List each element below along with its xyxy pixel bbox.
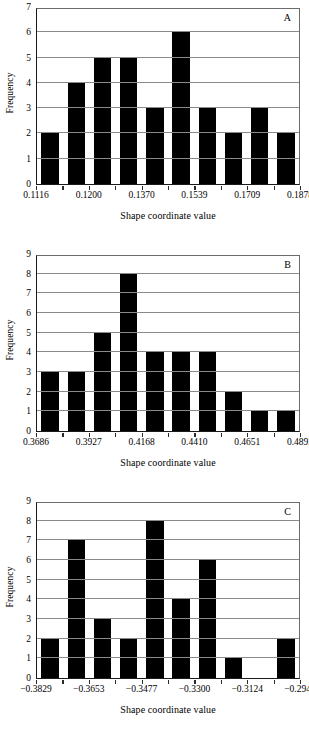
gridline [37,520,299,521]
bar-slot [89,503,115,678]
gridline [37,132,299,133]
gridline [37,371,299,372]
histogram-figure: Frequency 01234567 A 0.11160.12000.13700… [0,0,309,742]
x-tick-label: 0.4651 [234,438,260,448]
x-tick-label: −0.3124 [231,685,262,695]
histogram-bar [94,58,111,184]
gridline [37,618,299,619]
y-tick-label: 9 [26,497,31,507]
y-tick-label: 1 [26,408,31,418]
y-tick-label: 7 [26,3,31,13]
x-tick-mark [62,186,63,190]
x-axis-title-a: Shape coordinate value [36,210,300,221]
gridline [37,31,299,32]
gridline [37,351,299,352]
bar-slot [63,503,89,678]
bar-slot [89,256,115,431]
x-tick-label: 0.1370 [129,191,155,201]
histogram-bar [172,352,189,431]
y-tick-label: 5 [26,329,31,339]
gridline [37,559,299,560]
y-tick-label: 6 [26,309,31,319]
bar-slot [142,256,168,431]
chart-panel-a: Frequency 01234567 A 0.11160.12000.13700… [0,0,309,247]
y-tick-label: 4 [26,596,31,606]
bar-series-b [37,256,299,431]
y-tick-label: 1 [26,155,31,165]
gridline [37,657,299,658]
plot-wrapper-b: Frequency 0123456789 B 0.36860.39270.416… [0,247,309,494]
histogram-bar [225,133,242,184]
x-tick-label: −0.3829 [20,685,51,695]
x-tick-label: 0.1116 [23,191,48,201]
x-tick-label: 0.1200 [76,191,102,201]
histogram-bar [251,411,268,431]
bar-slot [273,503,299,678]
x-tick-mark [274,680,275,684]
x-tick-mark [115,680,116,684]
bar-slot [142,503,168,678]
y-axis-label-text-a: Frequency [4,72,14,113]
gridline [37,292,299,293]
x-tick-mark [274,433,275,437]
histogram-bar [146,108,163,184]
y-axis-ticks-c: 0123456789 [14,494,34,679]
plot-wrapper-c: Frequency 0123456789 C −0.3829−0.3653−0.… [0,494,309,741]
x-tick-label: 0.4410 [181,438,207,448]
x-tick-mark [168,433,169,437]
histogram-bar [251,108,268,184]
plot-wrapper-a: Frequency 01234567 A 0.11160.12000.13700… [0,0,309,247]
histogram-bar [199,108,216,184]
y-tick-label: 3 [26,368,31,378]
x-tick-label: 0.4168 [129,438,155,448]
histogram-bar [94,619,111,678]
gridline [37,82,299,83]
plot-area-c: C [36,502,300,679]
y-tick-label: 0 [26,180,31,190]
x-tick-mark [274,186,275,190]
bar-slot [168,256,194,431]
bar-slot [116,256,142,431]
x-tick-label: 0.4893 [287,438,309,448]
gridline [37,158,299,159]
bar-series-c [37,503,299,678]
x-tick-mark [115,186,116,190]
x-tick-label: 0.1539 [181,191,207,201]
y-tick-label: 1 [26,655,31,665]
gridline [37,391,299,392]
y-tick-label: 5 [26,54,31,64]
histogram-bar [41,372,58,431]
histogram-bar [277,133,294,184]
gridline [37,598,299,599]
y-tick-label: 9 [26,250,31,260]
x-tick-label: −0.2948 [284,685,309,695]
x-tick-mark [168,680,169,684]
y-tick-label: 8 [26,517,31,527]
y-axis-ticks-b: 0123456789 [14,247,34,432]
y-tick-label: 4 [26,349,31,359]
x-tick-mark [62,433,63,437]
bar-slot [247,503,273,678]
x-axis-tick-labels-a: 0.11160.12000.13700.15390.17090.1878 [0,191,309,205]
bar-slot [194,503,220,678]
bar-slot [273,256,299,431]
gridline [37,579,299,580]
bar-slot [37,256,63,431]
y-tick-label: 3 [26,104,31,114]
y-tick-label: 2 [26,635,31,645]
plot-area-a: A [36,8,300,185]
histogram-bar [277,411,294,431]
gridline [37,107,299,108]
y-tick-label: 7 [26,537,31,547]
histogram-bar [94,333,111,431]
x-axis-title-c: Shape coordinate value [36,704,300,715]
y-tick-label: 6 [26,29,31,39]
x-tick-mark [221,433,222,437]
gridline [37,410,299,411]
gridline [37,312,299,313]
y-tick-label: 5 [26,576,31,586]
y-axis-label-text-b: Frequency [4,319,14,360]
x-tick-label: −0.3653 [73,685,104,695]
x-tick-mark [62,680,63,684]
gridline [37,332,299,333]
